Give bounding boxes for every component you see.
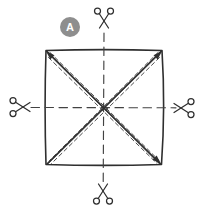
step-badge: A: [60, 17, 80, 37]
scissors-icon-top: [95, 8, 114, 28]
scissors-icon-bottom: [94, 184, 113, 204]
scissors-icon-left: [10, 98, 30, 117]
origami-diagram: [0, 0, 203, 212]
origami-step-panel: A: [0, 0, 203, 212]
scissors-icon-right: [174, 99, 194, 118]
step-badge-label: A: [66, 21, 74, 33]
